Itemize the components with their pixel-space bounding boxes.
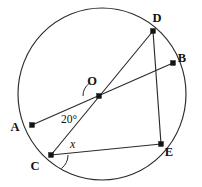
angle-arc-at-c bbox=[61, 155, 68, 169]
vertex-dot-b bbox=[171, 61, 176, 66]
point-label-d: D bbox=[152, 11, 161, 25]
angle-label-20deg: 20° bbox=[61, 113, 78, 125]
vertex-dot-o bbox=[97, 94, 102, 99]
vertex-dot-a bbox=[30, 123, 35, 128]
point-label-b: B bbox=[178, 51, 186, 65]
segment-ab bbox=[32, 63, 173, 125]
point-label-e: E bbox=[165, 145, 173, 159]
vertex-dot-e bbox=[159, 142, 164, 147]
geometry-figure: A B C D E O 20° x bbox=[0, 0, 202, 187]
point-label-c: C bbox=[30, 159, 39, 173]
point-label-o: O bbox=[87, 74, 97, 88]
point-label-a: A bbox=[10, 120, 19, 134]
circle-diagram-canvas: A B C D E O 20° x bbox=[0, 0, 202, 187]
segment-cd bbox=[51, 31, 153, 155]
angle-label-x: x bbox=[69, 137, 76, 151]
segment-ce bbox=[51, 144, 161, 155]
vertex-dot-d bbox=[151, 29, 156, 34]
segment-de bbox=[153, 31, 161, 144]
vertex-dot-c bbox=[49, 153, 54, 158]
